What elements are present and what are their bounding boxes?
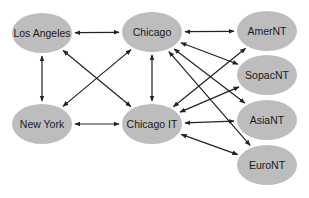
- node-cit: Chicago IT: [122, 104, 182, 144]
- edge-cit-euro: [181, 134, 237, 154]
- edge-cit-asia: [185, 121, 234, 123]
- node-label: Los Angeles: [13, 27, 70, 39]
- nodes-group: Los AngelesChicagoNew YorkChicago ITAmer…: [12, 11, 297, 185]
- node-label: Chicago IT: [127, 118, 178, 130]
- node-label: Chicago: [133, 26, 172, 38]
- node-amer: AmerNT: [237, 11, 297, 51]
- node-label: EuroNT: [249, 159, 286, 171]
- node-ny: New York: [12, 104, 72, 144]
- node-asia: AsiaNT: [237, 100, 297, 140]
- node-euro: EuroNT: [237, 145, 297, 185]
- node-label: New York: [20, 118, 65, 130]
- node-label: AmerNT: [247, 25, 287, 37]
- node-label: AsiaNT: [250, 114, 285, 126]
- edge-cit-sopac: [180, 87, 239, 112]
- node-label: SopacNT: [245, 69, 289, 81]
- network-diagram: Los AngelesChicagoNew YorkChicago ITAmer…: [0, 0, 309, 198]
- node-la: Los Angeles: [12, 13, 72, 53]
- node-sopac: SopacNT: [237, 55, 297, 95]
- node-chi: Chicago: [122, 12, 182, 52]
